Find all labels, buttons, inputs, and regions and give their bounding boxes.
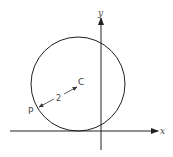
radius-label: 2 <box>56 94 61 103</box>
radius-arrow-to-p <box>39 99 54 107</box>
radius-arrow-to-c <box>64 87 77 94</box>
center-label: C <box>78 77 84 87</box>
x-axis-label: x <box>160 126 165 136</box>
point-label: P <box>28 106 34 116</box>
diagram-svg: y x C P 2 <box>0 0 173 157</box>
y-axis-label: y <box>97 8 104 18</box>
diagram-canvas: y x C P 2 <box>0 0 173 157</box>
